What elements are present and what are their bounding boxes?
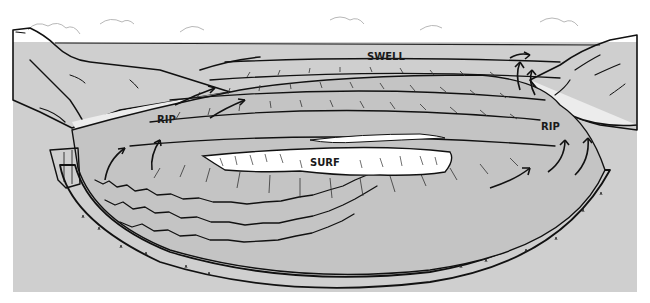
label-surf: SURF — [310, 157, 340, 168]
label-swell: SWELL — [367, 51, 405, 62]
label-rip-left: RIP — [157, 114, 176, 125]
rip-current-diagram: SWELL SURF RIP RIP — [0, 0, 650, 303]
sky-clouds — [28, 17, 578, 34]
label-rip-right: RIP — [541, 121, 560, 132]
